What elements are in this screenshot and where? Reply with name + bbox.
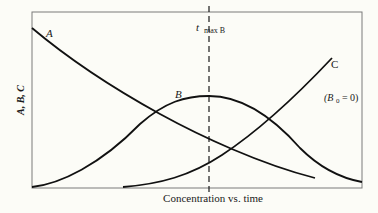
cond-open: (B — [324, 92, 333, 104]
tmax-subscript: max B — [204, 26, 225, 35]
tmax-label: t max B — [196, 17, 225, 35]
curve-b-label: B — [175, 88, 182, 100]
tmax-base: t — [196, 21, 200, 33]
concentration-time-chart: A B C t max B (B 0 = 0) A, B, C Concentr… — [0, 0, 378, 213]
curve-c — [123, 58, 332, 187]
curve-b — [32, 96, 362, 187]
initial-condition-label: (B 0 = 0) — [324, 92, 358, 105]
curve-a-label: A — [45, 27, 53, 39]
curve-c-label: C — [331, 58, 338, 70]
cond-rest: = 0) — [342, 92, 358, 104]
plot-frame — [32, 12, 362, 188]
y-axis-label: A, B, C — [15, 85, 26, 116]
x-axis-label: Concentration vs. time — [163, 192, 263, 204]
cond-subscript: 0 — [336, 97, 340, 105]
